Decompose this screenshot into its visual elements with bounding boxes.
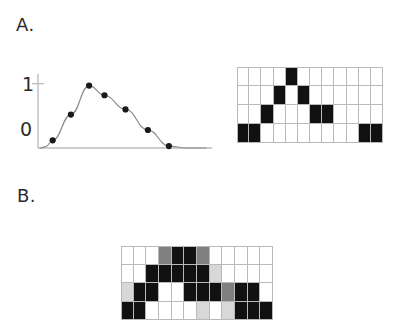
grid-a-cell-r0-c9-empty: [347, 67, 359, 86]
grid-b-cell-r3-c6-light-gray: [197, 302, 210, 321]
grid-b-cell-r0-c1-empty: [134, 246, 147, 265]
grid-a-cell-r0-c1-empty: [249, 67, 261, 86]
grid-b-cell-r2-c2-filled: [146, 283, 159, 302]
grid-b-cell-r0-c6-mid-gray: [197, 246, 210, 265]
grid-a-cell-r0-c3-empty: [274, 67, 286, 86]
grid-b-cell-r2-c8-mid-gray: [222, 283, 235, 302]
grid-b-cell-r3-c1-filled: [134, 302, 147, 321]
grid-a-cell-r3-c10-filled: [359, 124, 371, 143]
grid-a-cell-r0-c11-empty: [371, 67, 383, 86]
grid-b-cell-r2-c10-filled: [248, 283, 261, 302]
pixel-grid-panel-b: [121, 246, 273, 320]
chart-plot-area: [8, 60, 213, 165]
grid-a-cell-r3-c8-empty: [334, 124, 346, 143]
grid-a-cell-r0-c4-filled: [286, 67, 298, 86]
data-point-2: [86, 82, 92, 88]
grid-a-cell-r3-c9-empty: [347, 124, 359, 143]
grid-b-cell-r3-c5-empty: [184, 302, 197, 321]
grid-b-cell-r1-c1-empty: [134, 265, 147, 284]
grid-a-cell-r3-c5-empty: [298, 124, 310, 143]
grid-b-cell-r2-c11-empty: [260, 283, 273, 302]
grid-b-cell-r2-c6-filled: [197, 283, 210, 302]
grid-a-cell-r1-c4-empty: [286, 86, 298, 105]
grid-a-cell-r1-c3-filled: [274, 86, 286, 105]
grid-a-cell-r0-c0-empty: [237, 67, 249, 86]
grid-a-cell-r2-c4-empty: [286, 105, 298, 124]
grid-b-cell-r2-c1-filled: [134, 283, 147, 302]
grid-b-cell-r2-c9-filled: [235, 283, 248, 302]
grid-a-cell-r1-c11-empty: [371, 86, 383, 105]
grid-b-cell-r0-c11-empty: [260, 246, 273, 265]
pixel-grid-panel-a: [237, 67, 383, 143]
grid-a-cell-r0-c8-empty: [334, 67, 346, 86]
grid-b-cell-r3-c3-empty: [159, 302, 172, 321]
grid-a-cell-r2-c8-empty: [334, 105, 346, 124]
grid-b-cell-r1-c9-empty: [235, 265, 248, 284]
grid-a-cell-r0-c2-empty: [261, 67, 273, 86]
grid-b-cell-r2-c3-empty: [159, 283, 172, 302]
panel-label-b: B.: [17, 187, 36, 205]
grid-a-cell-r2-c5-empty: [298, 105, 310, 124]
grid-a-cell-r2-c11-empty: [371, 105, 383, 124]
grid-b-cell-r2-c4-empty: [172, 283, 185, 302]
grid-b-cell-r1-c6-filled: [197, 265, 210, 284]
figure-root: A. 1 0 B.: [0, 0, 395, 333]
grid-a-cell-r1-c6-empty: [310, 86, 322, 105]
grid-b-cell-r3-c10-filled: [248, 302, 261, 321]
grid-b-cell-r1-c5-filled: [184, 265, 197, 284]
data-point-4: [122, 106, 128, 112]
grid-a-cell-r2-c1-empty: [249, 105, 261, 124]
grid-b-cell-r1-c2-filled: [146, 265, 159, 284]
data-point-5: [145, 127, 151, 133]
grid-b-cell-r2-c7-filled: [210, 283, 223, 302]
grid-a-cell-r1-c9-empty: [347, 86, 359, 105]
grid-a-cell-r1-c0-empty: [237, 86, 249, 105]
grid-b-cell-r0-c2-empty: [146, 246, 159, 265]
grid-a-cell-r2-c10-empty: [359, 105, 371, 124]
grid-a-cell-r3-c1-filled: [249, 124, 261, 143]
grid-b-cell-r2-c5-filled: [184, 283, 197, 302]
grid-b-cell-r3-c0-filled: [121, 302, 134, 321]
grid-b-cell-r3-c9-filled: [235, 302, 248, 321]
grid-b-cell-r1-c0-empty: [121, 265, 134, 284]
grid-a-cell-r0-c7-empty: [322, 67, 334, 86]
grid-a-cell-r3-c4-empty: [286, 124, 298, 143]
grid-a-cell-r1-c2-empty: [261, 86, 273, 105]
grid-b-cell-r1-c4-filled: [172, 265, 185, 284]
line-chart-panel-a: 1 0: [8, 60, 213, 165]
grid-b-cell-r3-c7-empty: [210, 302, 223, 321]
data-curve: [40, 86, 206, 148]
grid-b-cell-r1-c8-empty: [222, 265, 235, 284]
grid-a-cell-r1-c5-filled: [298, 86, 310, 105]
grid-a-cell-r2-c3-empty: [274, 105, 286, 124]
grid-b-cell-r3-c4-empty: [172, 302, 185, 321]
grid-a-cell-r1-c1-empty: [249, 86, 261, 105]
grid-b-cell-r2-c0-light-gray: [121, 283, 134, 302]
grid-b-cell-r0-c10-empty: [248, 246, 261, 265]
grid-b-cell-r0-c5-filled: [184, 246, 197, 265]
grid-b-cell-r0-c7-empty: [210, 246, 223, 265]
grid-a-cell-r0-c10-empty: [359, 67, 371, 86]
grid-a-cell-r3-c6-empty: [310, 124, 322, 143]
grid-a-cell-r3-c11-filled: [371, 124, 383, 143]
data-point-6: [166, 143, 172, 149]
grid-a-cell-r2-c2-filled: [261, 105, 273, 124]
grid-b-cell-r0-c4-filled: [172, 246, 185, 265]
grid-a-cell-r2-c0-empty: [237, 105, 249, 124]
grid-b-cell-r0-c0-empty: [121, 246, 134, 265]
grid-b-cell-r0-c9-empty: [235, 246, 248, 265]
grid-a-cell-r1-c7-empty: [322, 86, 334, 105]
grid-a-cell-r0-c5-empty: [298, 67, 310, 86]
grid-b-cell-r1-c7-light-gray: [210, 265, 223, 284]
grid-b-cell-r1-c10-empty: [248, 265, 261, 284]
grid-b-cell-r0-c8-empty: [222, 246, 235, 265]
grid-a-cell-r0-c6-empty: [310, 67, 322, 86]
grid-b-cell-r3-c2-empty: [146, 302, 159, 321]
grid-a-cell-r2-c6-filled: [310, 105, 322, 124]
grid-a-cell-r3-c7-empty: [322, 124, 334, 143]
grid-b-cell-r3-c11-filled: [260, 302, 273, 321]
data-point-0: [50, 137, 56, 143]
grid-b-cell-r0-c3-mid-gray: [159, 246, 172, 265]
data-point-3: [101, 92, 107, 98]
grid-a-cell-r1-c10-empty: [359, 86, 371, 105]
